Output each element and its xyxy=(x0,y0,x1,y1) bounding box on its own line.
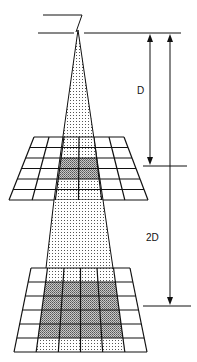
label-d: D xyxy=(137,85,144,96)
grid-cell-shaded xyxy=(60,310,80,324)
grid-cell-shaded xyxy=(101,324,123,338)
grid-cell-shaded xyxy=(98,282,117,296)
grid-cell-shaded xyxy=(100,310,121,324)
source-slit xyxy=(38,15,82,33)
grid-cell-shaded xyxy=(36,338,59,352)
grid-cell-shaded xyxy=(81,296,100,310)
lower-grid xyxy=(14,268,147,352)
grid-cell-shaded xyxy=(57,179,79,190)
arrow-head-down-icon xyxy=(147,157,153,165)
grid-cell-shaded xyxy=(42,296,62,310)
grid-cell-shaded xyxy=(99,296,119,310)
grid-cell-shaded xyxy=(40,310,61,324)
grid-cell-shaded xyxy=(79,158,98,169)
grid-cell-shaded xyxy=(63,137,79,148)
grid-cell-shaded xyxy=(79,190,102,201)
grid-cell-shaded xyxy=(55,190,78,201)
grid-cell-shaded xyxy=(81,282,99,296)
grid-cell-shaded xyxy=(58,169,79,180)
grid-cell-shaded xyxy=(79,179,101,190)
arrow-head-up-icon xyxy=(167,34,173,42)
arrow-head-down-icon xyxy=(167,297,173,305)
grid-cell-shaded xyxy=(46,268,64,282)
beam-upper xyxy=(63,30,94,137)
grid-cell-shaded xyxy=(81,324,102,338)
beam-lower xyxy=(46,200,113,268)
grid-cell-shaded xyxy=(59,324,80,338)
grid-cell-shaded xyxy=(63,268,80,282)
grid-cell-shaded xyxy=(61,148,79,159)
grid-cell-shaded xyxy=(62,282,80,296)
grid-cell-shaded xyxy=(44,282,63,296)
grid-cell-shaded xyxy=(97,268,115,282)
grid-cell-shaded xyxy=(79,169,99,180)
arrow-head-up-icon xyxy=(147,34,153,42)
grid-cell-shaded xyxy=(81,268,98,282)
grid-cell-shaded xyxy=(61,296,80,310)
grid-cell-shaded xyxy=(102,338,125,352)
grid-cell-shaded xyxy=(58,338,80,352)
inverse-square-diagram: D 2D xyxy=(0,0,197,362)
upper-grid xyxy=(9,137,148,200)
grid-cell-shaded xyxy=(81,338,103,352)
grid-cell-shaded xyxy=(60,158,79,169)
label-2d: 2D xyxy=(146,232,159,243)
grid-cell-shaded xyxy=(79,148,97,159)
grid-cell-shaded xyxy=(79,137,95,148)
grid-cell-shaded xyxy=(38,324,60,338)
grid-cell-shaded xyxy=(81,310,101,324)
